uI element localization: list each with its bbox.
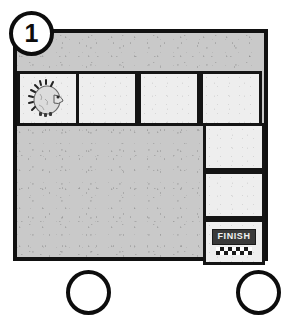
tile-start[interactable] [17, 71, 79, 126]
tile-path-5[interactable] [203, 171, 265, 219]
level-badge: 1 [9, 11, 54, 56]
tile-path-4[interactable] [203, 123, 265, 171]
next-puzzle-badge-left[interactable] [66, 270, 111, 315]
tile-finish[interactable]: FINISH [203, 219, 265, 265]
finish-sign-icon: FINISH [206, 222, 262, 262]
tile-path-3[interactable] [200, 71, 262, 126]
tile-path-2[interactable] [138, 71, 200, 126]
finish-label: FINISH [212, 229, 255, 245]
game-board: FINISH [13, 29, 268, 261]
checkered-flag-strip [216, 247, 252, 255]
tile-path-1[interactable] [76, 71, 138, 126]
hedgehog-icon [28, 78, 68, 120]
next-puzzle-badge-right[interactable] [236, 270, 281, 315]
level-number: 1 [25, 21, 39, 46]
